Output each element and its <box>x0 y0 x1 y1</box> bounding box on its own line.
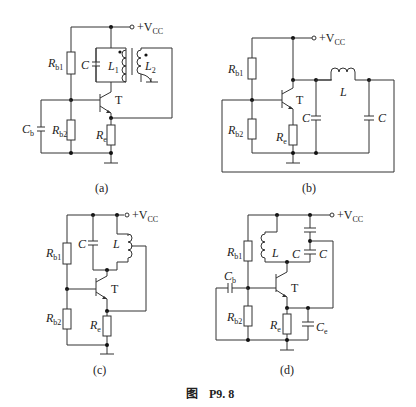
label-ce: Ce <box>316 320 328 336</box>
label-l2: L2 <box>144 59 156 75</box>
label-rb2: Rb2 <box>226 310 242 326</box>
vcc-terminal <box>312 36 316 40</box>
resistor-rb2 <box>244 306 252 326</box>
transistor-t <box>248 262 287 308</box>
resistor-rb1 <box>248 58 256 79</box>
label-transistor: T <box>291 281 299 295</box>
label-c-bottom-node: C <box>292 247 301 261</box>
label-re: Re <box>95 128 107 144</box>
capacitor-ce <box>302 322 314 326</box>
transistor-t <box>252 80 293 125</box>
polarity-dot-l2 <box>144 53 147 56</box>
vcc-terminal <box>125 213 129 217</box>
resistor-re <box>103 316 111 336</box>
circuit-c: +VCC Rb1 C L T Rb2 Re (c) <box>45 208 158 377</box>
label-transistor: T <box>115 93 123 107</box>
label-rb1: Rb1 <box>45 246 61 262</box>
vcc-terminal <box>330 213 334 217</box>
inductor-l2 <box>137 50 141 74</box>
figure-prefix: 图 <box>186 387 198 401</box>
label-c: C <box>78 237 87 251</box>
inductor-l <box>261 234 265 258</box>
resistor-re <box>283 314 291 334</box>
capacitor-c-right <box>364 116 374 120</box>
ground-symbol <box>41 153 118 163</box>
transistor-t <box>71 92 111 118</box>
label-l: L <box>271 246 279 260</box>
circuit-b: +VCC Rb1 L C C T Rb2 <box>222 31 394 195</box>
vcc-label: +VCC <box>137 20 163 36</box>
vcc-label: +VCC <box>337 208 363 224</box>
resistor-re <box>289 125 297 145</box>
polarity-dot-l1 <box>118 50 121 53</box>
circuit-a: +VCC Rb1 C L1 L2 T Rb2 <box>22 20 172 195</box>
resistor-rb2 <box>248 119 256 139</box>
label-c: C <box>81 58 90 72</box>
label-rb2: Rb2 <box>227 123 243 139</box>
label-rb1: Rb1 <box>47 56 63 72</box>
caption-d: (d) <box>280 363 294 377</box>
resistor-rb2 <box>63 309 71 329</box>
inductor-l <box>331 68 355 80</box>
label-rb2: Rb2 <box>51 123 67 139</box>
label-re: Re <box>269 318 281 334</box>
capacitor-cb <box>37 127 45 131</box>
capacitor-c-top <box>304 228 316 232</box>
label-transistor: T <box>296 93 304 107</box>
label-l: L <box>112 237 120 251</box>
caption-a: (a) <box>95 181 108 195</box>
capacitor-c <box>88 241 98 245</box>
label-re: Re <box>89 318 101 334</box>
resistor-rb1 <box>244 241 252 261</box>
resistor-rb1 <box>67 52 75 74</box>
circuit-d: +VCC Rb1 L C C T Cb R <box>216 208 363 377</box>
resistor-rb1 <box>63 243 71 264</box>
capacitor-c-left <box>311 116 321 120</box>
figure-canvas: +VCC Rb1 C L1 L2 T Rb2 <box>0 0 416 407</box>
ground-symbol <box>216 340 308 350</box>
resistor-rb2 <box>67 120 75 140</box>
label-re: Re <box>275 130 287 146</box>
label-c-left: C <box>302 111 311 125</box>
figure-number: P9. 8 <box>209 387 234 401</box>
label-rb2: Rb2 <box>45 311 61 327</box>
inductor-l1 <box>122 50 126 82</box>
vcc-label: +VCC <box>132 208 158 224</box>
label-rb1: Rb1 <box>227 62 243 78</box>
label-c-right: C <box>378 111 387 125</box>
label-transistor: T <box>111 282 119 296</box>
label-l1: L1 <box>107 59 119 75</box>
vcc-terminal <box>130 25 134 29</box>
vcc-label: +VCC <box>319 31 345 47</box>
capacitor-c-bottom <box>304 250 316 254</box>
resistor-re <box>107 125 115 145</box>
transistor-t <box>67 270 107 311</box>
ground-symbol <box>252 153 369 163</box>
label-cb: Cb <box>224 269 236 285</box>
label-rb1: Rb1 <box>226 245 242 261</box>
label-cb: Cb <box>22 122 34 138</box>
label-l: L <box>339 85 347 99</box>
label-c-right: C <box>319 247 328 261</box>
caption-c: (c) <box>93 363 106 377</box>
caption-b: (b) <box>302 181 316 195</box>
